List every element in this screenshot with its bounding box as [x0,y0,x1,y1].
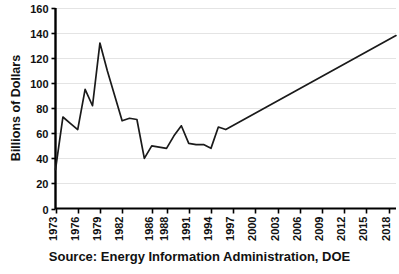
x-tick-label: 2012 [335,217,347,241]
x-tick-label: 1994 [202,216,214,241]
y-tick-label: 140 [30,28,48,40]
y-tick-label: 20 [36,178,48,190]
x-tick-label: 2000 [246,217,258,241]
x-tick-label: 1997 [224,217,236,241]
x-tick-label: 1976 [69,217,81,241]
y-tick-label: 160 [30,3,48,15]
x-tick-label: 1973 [47,217,59,241]
source-caption: Source: Energy Information Administratio… [0,249,399,264]
x-tick-label: 1979 [91,217,103,241]
x-tick-label: 2003 [269,217,281,241]
x-tick-label: 2006 [291,217,303,241]
y-tick-label: 80 [36,103,48,115]
x-tick-label: 2009 [313,217,325,241]
y-tick-label: 0 [42,204,48,216]
x-tick-label: 2015 [357,217,369,241]
x-tick-label: 1988 [158,217,170,241]
x-tick-label: 1986 [143,217,155,241]
chart-figure: 020406080100120140160 197319761979198219… [0,0,399,274]
y-tick-label: 120 [30,53,48,65]
line-chart: 020406080100120140160 197319761979198219… [0,0,399,252]
chart-background [0,0,399,252]
y-axis-title-text: Billions of Dollars [9,55,23,161]
y-axis-title: Billions of Dollars [9,55,23,161]
y-tick-label: 60 [36,128,48,140]
x-tick-label: 1991 [180,217,192,241]
x-tick-label: 2018 [380,217,392,241]
y-tick-label: 100 [30,78,48,90]
y-tick-label: 40 [36,153,48,165]
x-tick-label: 1982 [113,217,125,241]
